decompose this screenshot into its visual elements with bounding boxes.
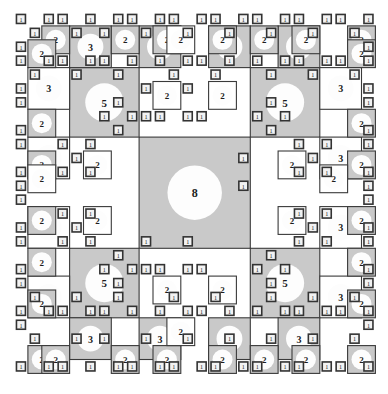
unit-square-1: 1	[322, 306, 331, 315]
unit-value-label: 1	[325, 210, 328, 217]
unit-square-1: 1	[281, 112, 290, 121]
unit-value-label: 1	[311, 71, 314, 78]
unit-value-label: 1	[284, 363, 287, 370]
unit-value-label: 1	[200, 363, 203, 370]
unit-square-1: 1	[336, 14, 345, 23]
unit-square-1: 1	[364, 126, 373, 135]
square-value-label: 5	[282, 97, 288, 109]
unit-value-label: 1	[367, 44, 370, 51]
unit-square-1: 1	[183, 265, 192, 274]
unit-square-1: 1	[267, 251, 276, 260]
unit-value-label: 1	[131, 308, 134, 315]
square-value-label: 2	[95, 160, 100, 170]
unit-square-1: 1	[225, 56, 234, 65]
unit-value-label: 1	[186, 57, 189, 64]
unit-square-1: 1	[364, 237, 373, 246]
square-value-label: 2	[304, 355, 309, 365]
unit-square-1: 1	[336, 306, 345, 315]
unit-value-label: 1	[214, 71, 217, 78]
unit-value-label: 1	[339, 308, 342, 315]
unit-value-label: 1	[256, 57, 259, 64]
unit-square-1: 1	[183, 28, 192, 37]
unit-value-label: 1	[367, 141, 370, 148]
unit-square-1: 1	[16, 167, 25, 176]
unit-value-label: 1	[33, 294, 36, 301]
unit-value-label: 1	[353, 294, 356, 301]
unit-value-label: 1	[19, 266, 22, 273]
square-value-label: 3	[157, 334, 162, 345]
square-value-label: 2	[220, 91, 225, 101]
unit-square-1: 1	[267, 126, 276, 135]
unit-square-1: 1	[364, 167, 373, 176]
unit-square-1: 1	[183, 84, 192, 93]
unit-square-1: 1	[169, 292, 178, 301]
unit-square-1: 1	[197, 306, 206, 315]
unit-square-1: 1	[155, 306, 164, 315]
unit-square-1: 1	[114, 251, 123, 260]
unit-value-label: 1	[103, 308, 106, 315]
unit-value-label: 1	[145, 335, 148, 342]
unit-value-label: 1	[367, 238, 370, 245]
unit-square-1: 1	[225, 28, 234, 37]
unit-square-1: 1	[128, 306, 137, 315]
unit-square-1: 1	[100, 265, 109, 274]
figure-caption	[155, 379, 235, 391]
unit-value-label: 1	[200, 57, 203, 64]
unit-value-label: 1	[186, 238, 189, 245]
unit-value-label: 1	[367, 16, 370, 23]
unit-value-label: 1	[89, 169, 92, 176]
unit-square-1: 1	[114, 279, 123, 288]
unit-square-1: 1	[100, 112, 109, 121]
unit-value-label: 1	[19, 224, 22, 231]
unit-square-1: 1	[308, 292, 317, 301]
unit-square-1: 1	[322, 14, 331, 23]
unit-square-1: 1	[16, 265, 25, 274]
unit-value-label: 1	[19, 322, 22, 329]
unit-value-label: 1	[297, 238, 300, 245]
unit-value-label: 1	[131, 113, 134, 120]
unit-square-1: 1	[142, 112, 151, 121]
unit-square-1: 1	[44, 14, 53, 23]
unit-square-1: 1	[128, 14, 137, 23]
square-value-label: 2	[40, 174, 45, 184]
unit-square-1: 1	[322, 362, 331, 371]
unit-value-label: 1	[117, 280, 120, 287]
unit-value-label: 1	[367, 224, 370, 231]
unit-square-1: 1	[211, 362, 220, 371]
unit-value-label: 1	[186, 308, 189, 315]
unit-square-1: 1	[364, 42, 373, 51]
unit-value-label: 1	[19, 99, 22, 106]
unit-value-label: 1	[19, 44, 22, 51]
square-value-label: 3	[88, 42, 93, 53]
unit-square-1: 1	[169, 14, 178, 23]
square-value-label: 2	[40, 216, 45, 226]
unit-square-1: 1	[100, 306, 109, 315]
unit-value-label: 1	[103, 335, 106, 342]
unit-square-1: 1	[197, 265, 206, 274]
unit-value-label: 1	[367, 266, 370, 273]
unit-value-label: 1	[256, 16, 259, 23]
unit-value-label: 1	[131, 363, 134, 370]
unit-value-label: 1	[367, 169, 370, 176]
unit-square-1: 1	[294, 56, 303, 65]
unit-value-label: 1	[158, 363, 161, 370]
unit-square-1: 1	[267, 334, 276, 343]
unit-square-1: 1	[364, 320, 373, 329]
square-value-label: 5	[282, 277, 288, 289]
unit-value-label: 1	[33, 71, 36, 78]
unit-value-label: 1	[61, 57, 64, 64]
unit-square-1: 1	[364, 56, 373, 65]
unit-square-1: 1	[211, 70, 220, 79]
unit-value-label: 1	[145, 113, 148, 120]
unit-value-label: 1	[353, 335, 356, 342]
unit-value-label: 1	[172, 16, 175, 23]
unit-square-1: 1	[253, 14, 262, 23]
unit-value-label: 1	[89, 210, 92, 217]
unit-value-label: 1	[297, 308, 300, 315]
unit-square-1: 1	[364, 223, 373, 232]
unit-value-label: 1	[145, 30, 148, 37]
unit-value-label: 1	[228, 57, 231, 64]
unit-value-label: 1	[33, 335, 36, 342]
unit-square-1: 1	[364, 181, 373, 190]
unit-value-label: 1	[19, 169, 22, 176]
